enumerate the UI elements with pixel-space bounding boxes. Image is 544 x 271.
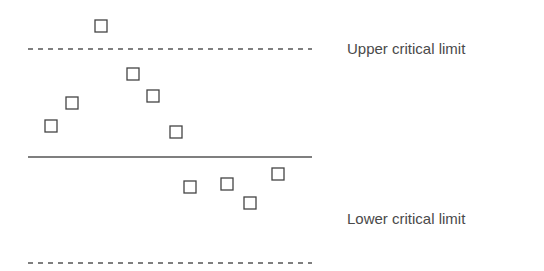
square-marker-icon bbox=[244, 197, 256, 209]
square-marker-icon bbox=[184, 181, 196, 193]
square-marker-icon bbox=[127, 68, 139, 80]
lower-critical-limit-label: Lower critical limit bbox=[347, 210, 465, 227]
square-marker-icon bbox=[45, 120, 57, 132]
square-marker-icon bbox=[147, 90, 159, 102]
square-marker-icon bbox=[66, 97, 78, 109]
square-marker-icon bbox=[272, 168, 284, 180]
upper-critical-limit-label: Upper critical limit bbox=[347, 40, 465, 57]
square-marker-icon bbox=[170, 126, 182, 138]
square-marker-icon bbox=[221, 178, 233, 190]
square-marker-icon bbox=[95, 20, 107, 32]
reference-lines bbox=[28, 49, 312, 263]
